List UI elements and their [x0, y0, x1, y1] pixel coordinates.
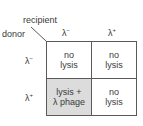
- row-header-lambda-plus: λ+: [25, 93, 33, 103]
- cell-plus-minus-highlighted: lysis + λ phage: [47, 79, 92, 115]
- column-header-lambda-plus: λ+: [108, 28, 116, 38]
- cell-text-line1: lysis +: [56, 87, 81, 97]
- cell-text-line1: no: [64, 50, 74, 60]
- cell-minus-minus: no lysis: [47, 42, 92, 79]
- column-header-lambda-minus: λ−: [62, 28, 70, 38]
- cross-result-grid: no lysis no lysis lysis + λ phage no lys…: [46, 41, 137, 116]
- cell-text-line1: no: [109, 50, 119, 60]
- cell-text-line2: lysis: [60, 60, 78, 70]
- cell-minus-plus: no lysis: [92, 42, 136, 79]
- cell-plus-plus: no lysis: [92, 79, 136, 115]
- cell-text-line2: lysis: [105, 97, 123, 107]
- row-header-lambda-minus: λ−: [25, 56, 33, 66]
- cell-text-line2: lysis: [105, 60, 123, 70]
- cell-text-line1: no: [109, 87, 119, 97]
- cell-text-line2: λ phage: [53, 97, 85, 107]
